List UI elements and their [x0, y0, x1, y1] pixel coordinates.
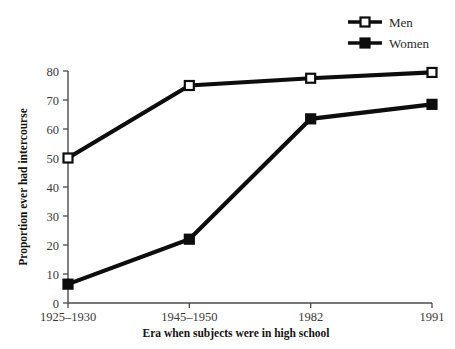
data-point: [428, 68, 437, 77]
data-point: [306, 114, 315, 123]
data-point: [64, 154, 73, 163]
y-axis: 01020304050607080: [47, 65, 69, 311]
y-tick-label: 50: [47, 152, 60, 166]
y-axis-title: Proportion ever had intercourse: [17, 108, 30, 265]
series-line: [68, 104, 432, 284]
y-tick-label: 70: [47, 94, 60, 108]
data-point: [64, 280, 73, 289]
data-point: [185, 81, 194, 90]
y-tick-label: 10: [47, 268, 60, 282]
data-point: [306, 74, 315, 83]
chart-legend: MenWomen: [348, 15, 430, 51]
series-men: [64, 68, 437, 163]
y-tick-label: 30: [47, 210, 60, 224]
legend-marker: [361, 39, 370, 48]
x-axis-title: Era when subjects were in high school: [143, 327, 330, 340]
legend-label: Men: [389, 15, 413, 30]
chart-figure: MenWomen 01020304050607080 1925–19301945…: [0, 0, 455, 349]
legend-item-women: Women: [348, 36, 430, 51]
data-point: [428, 100, 437, 109]
data-point: [185, 235, 194, 244]
line-chart: MenWomen 01020304050607080 1925–19301945…: [0, 0, 455, 349]
x-axis: 1925–19301945–195019821991: [40, 303, 445, 324]
x-tick-label: 1991: [420, 310, 445, 324]
y-tick-label: 0: [53, 297, 59, 311]
x-tick-label: 1982: [298, 310, 323, 324]
y-tick-label: 40: [47, 181, 60, 195]
x-tick-label: 1945–1950: [161, 310, 217, 324]
series-container: [64, 68, 437, 289]
y-tick-label: 80: [47, 65, 60, 79]
y-tick-label: 20: [47, 239, 60, 253]
legend-marker: [361, 18, 370, 27]
x-tick-label: 1925–1930: [40, 310, 96, 324]
legend-label: Women: [389, 36, 430, 51]
legend-item-men: Men: [348, 15, 413, 30]
series-line: [68, 72, 432, 158]
y-tick-label: 60: [47, 123, 60, 137]
